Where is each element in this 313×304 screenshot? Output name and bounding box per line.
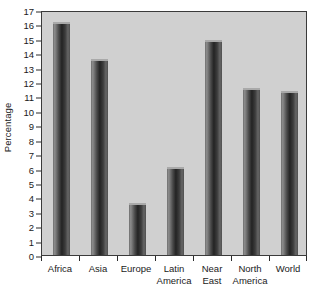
x-axis-category-labels: AfricaAsiaEuropeLatinAmericaNearEastNort… — [41, 263, 307, 301]
x-axis-category-label: Asia — [89, 263, 107, 275]
plot-bars-container — [42, 12, 306, 255]
x-axis-tick-marks — [41, 256, 307, 262]
x-axis-tick-mark — [117, 256, 118, 261]
y-axis-tick-label: 5 — [14, 180, 34, 190]
y-axis-tick-label: 0 — [14, 252, 34, 262]
x-axis-category-label: Africa — [48, 263, 72, 275]
y-axis-tick-label: 13 — [14, 65, 34, 75]
y-axis-tick-label: 15 — [14, 36, 34, 46]
x-axis-tick-mark — [269, 256, 270, 261]
x-axis-tick-mark — [155, 256, 156, 261]
y-axis-tick-label: 1 — [14, 238, 34, 248]
y-axis-tick-label: 4 — [14, 195, 34, 205]
x-axis-tick-mark — [193, 256, 194, 261]
x-axis-category-label: World — [276, 263, 301, 275]
y-axis-tick-label: 17 — [14, 7, 34, 17]
bar — [205, 40, 222, 255]
bar — [167, 167, 184, 255]
x-axis-category-label: LatinAmerica — [157, 263, 192, 286]
x-axis-tick-mark — [231, 256, 232, 261]
x-axis-category-label: NearEast — [202, 263, 223, 286]
bar — [281, 91, 298, 255]
y-axis-tick-labels: 01234567891011121314151617 — [14, 12, 34, 255]
bar — [243, 88, 260, 255]
y-axis-tick-label: 16 — [14, 22, 34, 32]
y-axis-tick-label: 11 — [14, 94, 34, 104]
y-axis-tick-label: 7 — [14, 151, 34, 161]
x-axis-category-label: Europe — [121, 263, 152, 275]
x-axis-tick-mark — [306, 256, 307, 261]
bar — [53, 22, 70, 255]
x-axis-tick-mark — [41, 256, 42, 261]
y-axis-tick-label: 9 — [14, 123, 34, 133]
y-axis-title-text: Percentage — [3, 103, 14, 153]
y-axis-tick-label: 2 — [14, 223, 34, 233]
y-axis-tick-label: 14 — [14, 50, 34, 60]
x-axis-tick-mark — [79, 256, 80, 261]
bar — [129, 203, 146, 255]
bar — [91, 59, 108, 255]
plot-area — [41, 11, 307, 256]
x-axis-category-label: NorthAmerica — [233, 263, 268, 286]
y-axis-tick-label: 6 — [14, 166, 34, 176]
y-axis-tick-label: 8 — [14, 137, 34, 147]
y-axis-tick-label: 10 — [14, 108, 34, 118]
y-axis-tick-label: 3 — [14, 209, 34, 219]
y-axis-tick-label: 12 — [14, 79, 34, 89]
bar-chart-figure: Percentage 01234567891011121314151617 Af… — [0, 0, 313, 304]
